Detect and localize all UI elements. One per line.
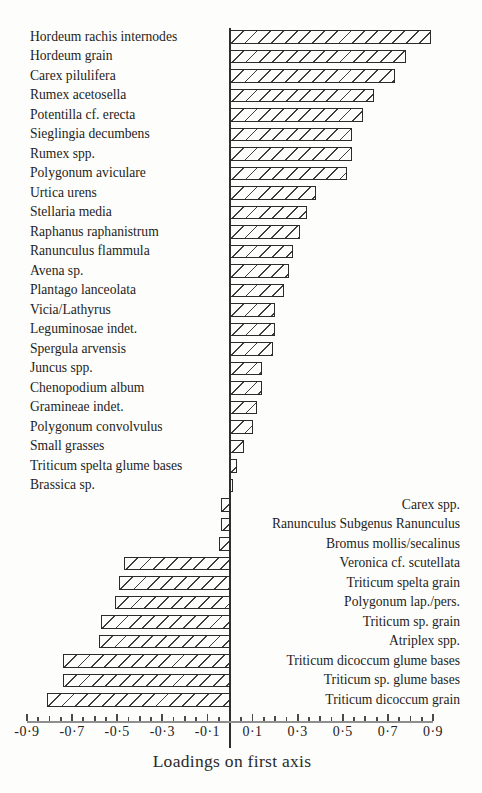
axis-minor-tick: [376, 717, 378, 721]
axis-major-tick: [387, 714, 389, 722]
bar: [230, 206, 307, 220]
bar: [230, 245, 293, 259]
x-axis-title: Loadings on first axis: [92, 751, 372, 772]
species-label: Triticum sp. glume bases: [324, 673, 460, 687]
axis-tick-label: 0·9: [423, 724, 443, 740]
bar: [230, 264, 289, 278]
species-label: Ranunculus Subgenus Ranunculus: [272, 517, 460, 531]
axis-major-tick: [26, 714, 28, 722]
bar: [230, 147, 352, 161]
axis-tick-label: 0·5: [333, 724, 353, 740]
species-label: Sieglingia decumbens: [30, 127, 150, 141]
species-label: Hordeum grain: [30, 49, 113, 63]
axis-tick-label: 0·1: [242, 724, 262, 740]
species-label: Raphanus raphanistrum: [30, 225, 159, 239]
species-label: Small grasses: [30, 439, 104, 453]
bar: [47, 693, 230, 707]
bar: [230, 89, 374, 103]
bar: [230, 167, 347, 181]
species-label: Carex pilulifera: [30, 69, 116, 83]
species-label: Urtica urens: [30, 186, 97, 200]
bar: [230, 303, 275, 317]
species-label: Plantago lanceolata: [30, 283, 136, 297]
bar: [63, 654, 230, 668]
bar: [99, 635, 230, 649]
species-label: Bromus mollis/secalinus: [326, 537, 460, 551]
species-label: Spergula arvensis: [30, 342, 126, 356]
bar: [115, 596, 230, 610]
axis-major-tick: [297, 714, 299, 722]
species-label: Polygonum aviculare: [30, 166, 146, 180]
species-label: Hordeum rachis internodes: [30, 30, 177, 44]
bar: [230, 323, 275, 337]
species-label: Triticum sp. grain: [363, 615, 460, 629]
axis-minor-tick: [331, 717, 333, 721]
bar: [230, 420, 253, 434]
axis-tick-label: -0·9: [14, 724, 39, 740]
species-label: Atriplex spp.: [389, 634, 460, 648]
bar: [230, 50, 406, 64]
axis-minor-tick: [263, 717, 265, 721]
bar: [124, 557, 230, 571]
bar: [230, 362, 262, 376]
axis-minor-tick: [240, 717, 242, 721]
bar: [230, 128, 352, 142]
axis-minor-tick: [105, 717, 107, 721]
species-label: Potentilla cf. erecta: [30, 108, 135, 122]
axis-minor-tick: [274, 716, 276, 721]
axis-minor-tick: [49, 716, 51, 721]
species-label: Triticum spelta glume bases: [30, 459, 182, 473]
bar: [230, 401, 257, 415]
bar: [230, 459, 237, 473]
species-label: Vicia/Lathyrus: [30, 303, 111, 317]
bar: [230, 30, 431, 44]
species-label: Brassica sp.: [30, 478, 95, 492]
axis-minor-tick: [218, 717, 220, 721]
axis-minor-tick: [319, 716, 321, 721]
axis-minor-tick: [364, 716, 366, 721]
bar: [230, 342, 273, 356]
species-label: Avena sp.: [30, 264, 83, 278]
axis-major-tick: [116, 714, 118, 722]
species-label: Triticum spelta grain: [346, 576, 460, 590]
axis-minor-tick: [184, 716, 186, 721]
x-axis-line: [27, 721, 433, 723]
zero-axis-line: [229, 28, 231, 748]
bar: [230, 186, 316, 200]
axis-minor-tick: [286, 717, 288, 721]
axis-minor-tick: [353, 717, 355, 721]
bar: [119, 576, 230, 590]
axis-major-tick: [432, 714, 434, 722]
species-label: Triticum dicoccum glume bases: [286, 654, 460, 668]
axis-minor-tick: [398, 717, 400, 721]
axis-minor-tick: [421, 717, 423, 721]
axis-minor-tick: [37, 717, 39, 721]
species-label: Rumex acetosella: [30, 88, 126, 102]
species-label: Stellaria media: [30, 205, 112, 219]
axis-minor-tick: [139, 716, 141, 721]
axis-minor-tick: [150, 717, 152, 721]
species-label: Carex spp.: [402, 498, 460, 512]
bar: [101, 615, 230, 629]
species-label: Polygonum convolvulus: [30, 420, 163, 434]
bar: [230, 225, 300, 239]
bar: [230, 69, 395, 83]
axis-tick-label: -0·1: [195, 724, 220, 740]
species-label: Rumex spp.: [30, 147, 95, 161]
bar: [230, 108, 363, 122]
species-label: Leguminosae indet.: [30, 322, 137, 336]
species-label: Triticum dicoccum grain: [325, 693, 460, 707]
axis-minor-tick: [82, 717, 84, 721]
species-label: Ranunculus flammula: [30, 244, 150, 258]
bar: [230, 284, 284, 298]
axis-major-tick: [342, 714, 344, 722]
species-label: Gramineae indet.: [30, 400, 124, 414]
axis-tick-label: -0·5: [105, 724, 130, 740]
axis-tick-label: 0·7: [378, 724, 398, 740]
loadings-bar-chart-figure: Hordeum rachis internodesHordeum grainCa…: [0, 0, 482, 793]
bar: [63, 674, 230, 688]
axis-major-tick: [252, 714, 254, 722]
species-label: Veronica cf. scutellata: [340, 556, 460, 570]
axis-tick-label: -0·7: [59, 724, 84, 740]
axis-minor-tick: [128, 717, 130, 721]
